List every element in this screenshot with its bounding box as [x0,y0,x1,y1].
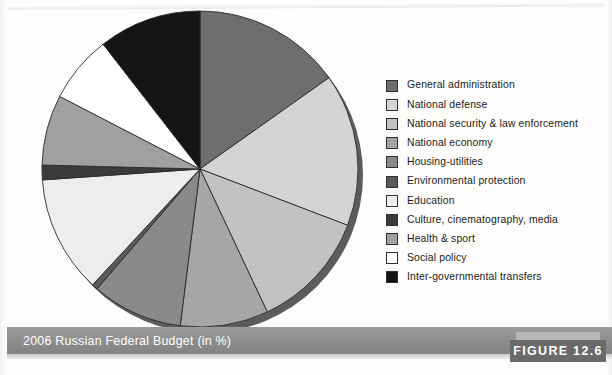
legend-item-label: Housing-utilities [407,157,483,167]
legend-item-label: Education [407,196,455,206]
figure-badge-tab [516,332,600,340]
pie-chart-svg [38,7,368,335]
figure-number-text: FIGURE 12.6 [513,344,602,358]
legend-item-social-policy[interactable]: Social policy [386,249,606,268]
legend-swatch-icon [386,195,398,207]
legend-swatch-icon [386,233,398,245]
legend-item-national-security-law-enforcement[interactable]: National security & law enforcement [386,114,606,133]
legend-swatch-icon [386,176,398,188]
legend-item-label: Inter-governmental transfers [407,272,542,282]
legend-item-environmental-protection[interactable]: Environmental protection [386,172,606,191]
legend-item-inter-governmental-transfers[interactable]: Inter-governmental transfers [386,268,606,287]
legend-item-label: General administration [407,80,515,90]
pie-slice-group [42,11,358,327]
legend-item-label: Social policy [407,253,467,263]
legend-item-culture-cinematography-media[interactable]: Culture, cinematography, media [386,210,606,229]
legend-item-label: Environmental protection [407,176,526,186]
legend: General administration National defense … [386,76,606,287]
figure-caption-text: 2006 Russian Federal Budget (in %) [23,334,231,348]
pie-chart [38,7,368,335]
legend-item-national-economy[interactable]: National economy [386,134,606,153]
legend-item-label: National economy [407,138,493,148]
legend-item-label: National security & law enforcement [407,119,578,129]
legend-item-general-administration[interactable]: General administration [386,76,606,95]
legend-item-label: Culture, cinematography, media [407,215,558,225]
legend-swatch-icon [386,80,398,92]
legend-item-education[interactable]: Education [386,191,606,210]
page-scan-edge-right [606,0,612,375]
legend-swatch-icon [386,156,398,168]
legend-swatch-icon [386,214,398,226]
legend-swatch-icon [386,118,398,130]
figure-number-badge: FIGURE 12.6 [510,340,606,362]
legend-item-housing-utilities[interactable]: Housing-utilities [386,153,606,172]
legend-item-health-sport[interactable]: Health & sport [386,230,606,249]
page-scan-edge-left [0,0,7,375]
legend-swatch-icon [386,252,398,264]
legend-swatch-icon [386,137,398,149]
legend-swatch-icon [386,99,398,111]
legend-item-label: Health & sport [407,234,475,244]
legend-item-national-defense[interactable]: National defense [386,95,606,114]
legend-item-label: National defense [407,100,487,110]
figure-container: General administration National defense … [0,0,612,375]
legend-swatch-icon [386,271,398,283]
